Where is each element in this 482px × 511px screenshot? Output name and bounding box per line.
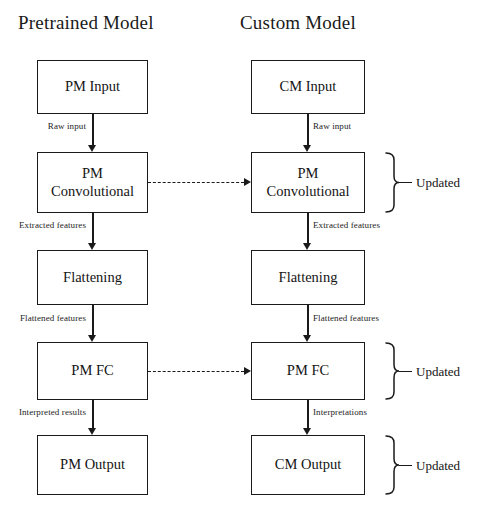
transfer-arrow-convolutional (148, 182, 244, 183)
edge-label-raw-input-left: Raw input (48, 121, 86, 131)
arrowhead-transfer-fc (244, 367, 251, 375)
edge-label-extracted-features-left: Extracted features (19, 220, 86, 230)
column-title-pretrained: Pretrained Model (18, 12, 154, 34)
connector-pm-conv-to-flattening (92, 213, 94, 243)
arrowhead-cm-flattening-to-fc (303, 335, 311, 342)
connector-pm-fc-to-output (92, 400, 94, 428)
node-label: Flattening (275, 269, 342, 286)
arrowhead-cm-input-to-conv (303, 145, 311, 152)
brace-tick-convolutional (399, 182, 412, 183)
connector-cm-flattening-to-fc (307, 305, 309, 335)
annotation-updated-output: Updated (416, 458, 460, 474)
connector-cm-conv-to-flattening (307, 213, 309, 243)
node-pm-flattening: Flattening (37, 250, 148, 305)
brace-output (384, 435, 400, 495)
node-cm-output: CM Output (251, 435, 365, 495)
arrowhead-pm-input-to-conv (88, 145, 96, 152)
node-label: PM Convolutional (263, 165, 354, 199)
node-label: CM Input (276, 78, 341, 95)
brace-tick-fc (399, 371, 412, 372)
arrowhead-transfer-convolutional (244, 178, 251, 186)
arrowhead-pm-conv-to-flattening (88, 243, 96, 250)
node-label: PM Output (56, 456, 129, 473)
node-pm-convolutional: PM Convolutional (37, 152, 148, 213)
connector-pm-input-to-conv (92, 114, 94, 145)
brace-convolutional (384, 152, 400, 213)
node-cm-flattening: Flattening (251, 250, 365, 305)
node-label: PM FC (67, 362, 117, 379)
node-cm-convolutional: PM Convolutional (251, 152, 365, 213)
edge-label-interpreted-results-left: Interpreted results (19, 407, 86, 417)
connector-cm-fc-to-output (307, 400, 309, 428)
arrowhead-pm-fc-to-output (88, 428, 96, 435)
connector-pm-flattening-to-fc (92, 305, 94, 335)
transfer-arrow-fc (148, 371, 244, 372)
arrowhead-cm-conv-to-flattening (303, 243, 311, 250)
connector-cm-input-to-conv (307, 114, 309, 145)
node-label: PM FC (283, 362, 333, 379)
node-cm-fc: PM FC (251, 342, 365, 400)
node-pm-fc: PM FC (37, 342, 148, 400)
arrowhead-cm-fc-to-output (303, 428, 311, 435)
diagram-canvas: Pretrained Model Custom Model PM Input R… (0, 0, 482, 511)
edge-label-extracted-features-right: Extracted features (313, 220, 380, 230)
node-cm-input: CM Input (251, 60, 365, 114)
edge-label-raw-input-right: Raw input (313, 121, 351, 131)
node-pm-output: PM Output (37, 435, 148, 495)
column-title-custom: Custom Model (240, 12, 356, 34)
brace-tick-output (399, 465, 412, 466)
edge-label-flattened-features-left: Flattened features (20, 313, 86, 323)
annotation-updated-convolutional: Updated (416, 175, 460, 191)
node-pm-input: PM Input (37, 60, 148, 114)
annotation-updated-fc: Updated (416, 364, 460, 380)
node-label: PM Input (61, 78, 124, 95)
node-label: Flattening (59, 269, 126, 286)
edge-label-flattened-features-right: Flattened features (313, 313, 379, 323)
node-label: PM Convolutional (47, 165, 138, 199)
brace-fc (384, 342, 400, 400)
edge-label-interpretations-right: Interpretations (313, 407, 367, 417)
node-label: CM Output (271, 456, 345, 473)
arrowhead-pm-flattening-to-fc (88, 335, 96, 342)
